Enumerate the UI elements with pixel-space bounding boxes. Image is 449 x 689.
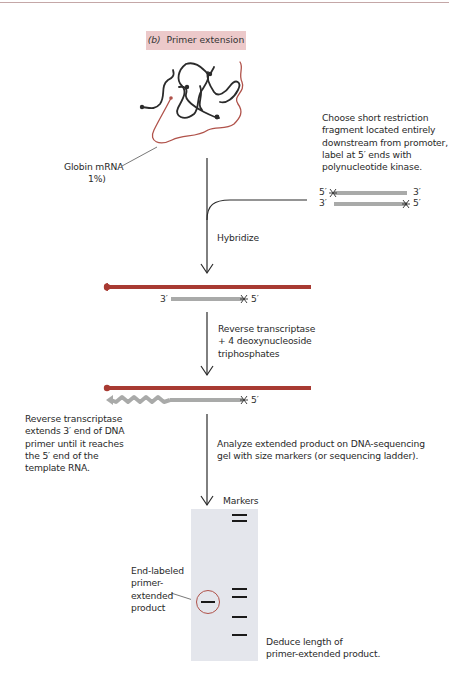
label-star-icon: [240, 396, 248, 404]
marker-band: [232, 634, 247, 636]
globin-leader-line: [122, 147, 157, 166]
probe-top-right-end: 3′: [413, 186, 421, 197]
reverse-transcriptase-arrow: [201, 312, 213, 375]
globin-pct-label: 1%): [88, 173, 106, 185]
analyze-arrow: [201, 414, 213, 505]
extension-note-text: Reverse transcriptase extends 3′ end of …: [25, 413, 124, 474]
text-line: the 5′ end of the: [25, 450, 124, 462]
mrna-tangle-icon: [140, 62, 243, 143]
marker-band: [232, 514, 247, 516]
extended-right-end: 5′: [251, 394, 259, 405]
text-line: extends 3′ end of DNA: [25, 425, 124, 437]
end-labeled-text: End-labeled primer- extended product: [131, 565, 184, 614]
text-line: primer until it reaches: [25, 438, 124, 450]
text-line: primer-extended product.: [266, 648, 380, 660]
text-line: Reverse transcriptase: [25, 413, 124, 425]
hybridize-label: Hybridize: [217, 232, 259, 244]
label-star-icon: [402, 200, 410, 208]
probe-bottom-left-end: 3′: [319, 197, 327, 208]
text-line: primer-: [131, 577, 184, 589]
text-line: triphosphates: [218, 348, 315, 360]
hybrid-rna-primer: [104, 283, 311, 303]
probe-top-left-end: 5′: [319, 186, 327, 197]
hybrid-left-end: 3′: [160, 293, 168, 304]
sequencing-gel: [191, 509, 258, 661]
marker-band: [232, 616, 247, 618]
deduce-text: Deduce length of primer-extended product…: [266, 636, 380, 661]
globin-mrna-label: Globin mRNA: [64, 161, 123, 173]
text-line: Choose short restriction: [322, 112, 448, 124]
choose-fragment-text: Choose short restriction fragment locate…: [322, 112, 448, 173]
extended-product: [104, 385, 311, 405]
text-line: fragment located entirely: [322, 124, 448, 136]
sample-band-circle: [196, 590, 220, 614]
marker-band: [232, 596, 247, 598]
probe-duplex: [329, 189, 410, 208]
text-line: Reverse transcriptase: [218, 323, 315, 335]
label-star-icon: [329, 189, 337, 197]
text-line: Analyze extended product on DNA-sequenci…: [217, 438, 425, 450]
text-line: gel with size markers (or sequencing lad…: [217, 450, 425, 462]
label-star-icon: [240, 295, 248, 303]
hybridize-arrow: [201, 158, 307, 273]
reverse-transcriptase-text: Reverse transcriptase + 4 deoxynucleosid…: [218, 323, 315, 360]
text-line: product: [131, 602, 184, 614]
probe-bottom-right-end: 5′: [413, 197, 421, 208]
text-line: polynucleotide kinase.: [322, 161, 448, 173]
hybrid-right-end: 5′: [251, 293, 259, 304]
markers-label: Markers: [223, 495, 259, 507]
marker-band: [232, 588, 247, 590]
analyze-text: Analyze extended product on DNA-sequenci…: [217, 438, 425, 463]
text-line: End-labeled: [131, 565, 184, 577]
text-line: downstream from promoter,: [322, 137, 448, 149]
text-line: Deduce length of: [266, 636, 380, 648]
marker-band: [232, 520, 247, 522]
text-line: extended: [131, 590, 184, 602]
text-line: label at 5′ ends with: [322, 149, 448, 161]
text-line: + 4 deoxynucleoside: [218, 335, 315, 347]
text-line: template RNA.: [25, 462, 124, 474]
